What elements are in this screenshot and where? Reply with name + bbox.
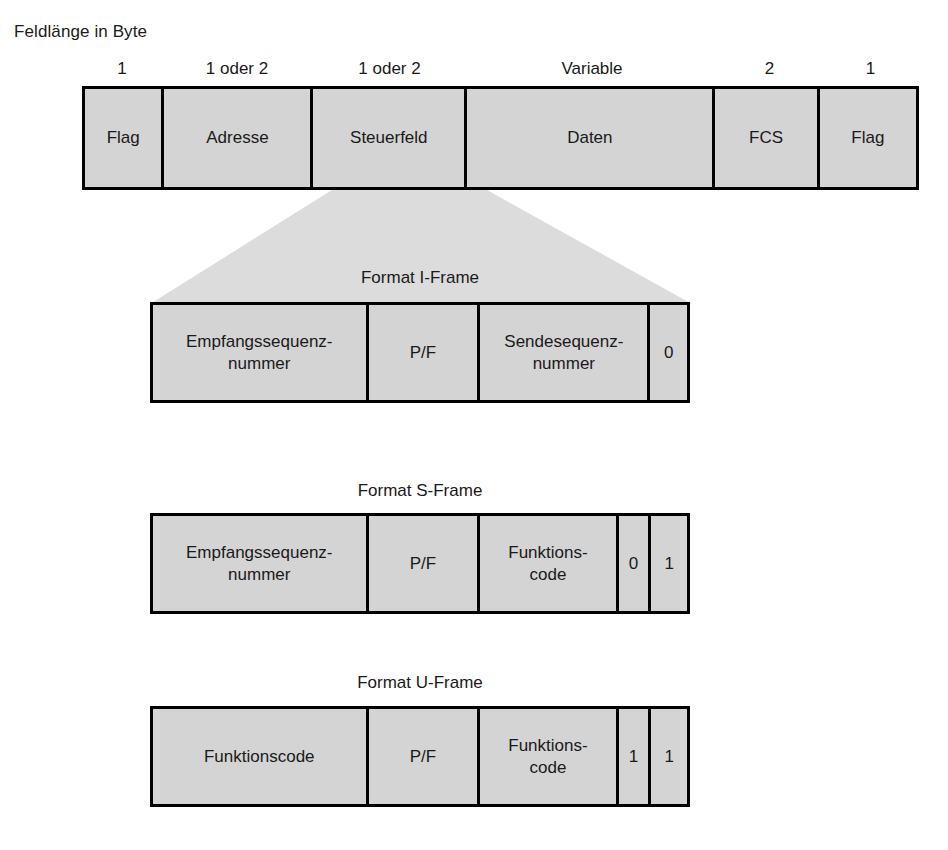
i-frame-cell-label: 0 [664,342,673,363]
s-frame-cell-label: 1 [664,553,673,574]
s-frame-cell-funktionscode[interactable]: Funktions- code [480,516,618,611]
frame-cell-label: Steuerfeld [350,127,428,148]
frame-cell-label: Daten [567,127,612,148]
i-frame-row: Empfangssequenz- nummer P/F Sendesequenz… [150,302,690,403]
frame-cell-flag-end[interactable]: Flag [820,89,916,187]
s-frame-cell-label: 0 [629,553,638,574]
u-frame-cell-label: P/F [410,746,436,767]
s-frame-cell-empfangssequenznummer[interactable]: Empfangssequenz- nummer [153,516,369,611]
u-frame-row: Funktionscode P/F Funktions- code 1 1 [150,706,690,807]
i-frame-cell-label: Sendesequenz- nummer [504,331,623,374]
field-size-label-adresse: 1 oder 2 [162,56,312,82]
i-frame-cell-pf[interactable]: P/F [369,305,481,400]
s-frame-cell-label: Empfangssequenz- nummer [186,542,332,585]
frame-cell-daten[interactable]: Daten [467,89,715,187]
i-frame-cell-empfangssequenznummer[interactable]: Empfangssequenz- nummer [153,305,369,400]
u-frame-cell-label: Funktionscode [204,746,315,767]
frame-cell-flag-start[interactable]: Flag [85,89,164,187]
field-size-label-daten: Variable [467,56,717,82]
s-frame-cell-label: P/F [410,553,436,574]
diagram-canvas: Feldlänge in Byte 1 1 oder 2 1 oder 2 Va… [0,0,948,850]
hdlc-frame-row: Flag Adresse Steuerfeld Daten FCS Flag [82,86,919,190]
u-frame-cell-bit-1a[interactable]: 1 [619,709,652,804]
u-frame-cell-funktionscode-1[interactable]: Funktionscode [153,709,369,804]
s-frame-cell-label: Funktions- code [508,542,587,585]
i-frame-cell-sendesequenznummer[interactable]: Sendesequenz- nummer [480,305,650,400]
frame-cell-label: FCS [749,127,783,148]
subframe-caption-i: Format I-Frame [150,268,690,288]
u-frame-cell-label: Funktions- code [508,735,587,778]
u-frame-cell-funktionscode-2[interactable]: Funktions- code [480,709,618,804]
i-frame-cell-label: P/F [410,342,436,363]
frame-cell-fcs[interactable]: FCS [715,89,819,187]
u-frame-cell-label: 1 [629,746,638,767]
frame-cell-adresse[interactable]: Adresse [164,89,313,187]
page-title: Feldlänge in Byte [14,22,147,42]
u-frame-cell-label: 1 [664,746,673,767]
subframe-caption-s: Format S-Frame [150,481,690,501]
u-frame-cell-pf[interactable]: P/F [369,709,481,804]
frame-cell-steuerfeld[interactable]: Steuerfeld [313,89,467,187]
s-frame-cell-bit-0[interactable]: 0 [619,516,652,611]
frame-cell-label: Flag [107,127,140,148]
s-frame-cell-pf[interactable]: P/F [369,516,481,611]
subframe-caption-u: Format U-Frame [150,673,690,693]
field-size-label-flag2: 1 [822,56,919,82]
field-size-label-row: 1 1 oder 2 1 oder 2 Variable 2 1 [82,56,919,82]
field-size-label-flag1: 1 [82,56,162,82]
i-frame-cell-label: Empfangssequenz- nummer [186,331,332,374]
s-frame-row: Empfangssequenz- nummer P/F Funktions- c… [150,513,690,614]
field-size-label-fcs: 2 [717,56,822,82]
u-frame-cell-bit-1b[interactable]: 1 [651,709,687,804]
frame-cell-label: Flag [851,127,884,148]
frame-cell-label: Adresse [206,127,268,148]
i-frame-cell-bit-0[interactable]: 0 [650,305,687,400]
field-size-label-steuerfeld: 1 oder 2 [312,56,467,82]
s-frame-cell-bit-1[interactable]: 1 [651,516,687,611]
